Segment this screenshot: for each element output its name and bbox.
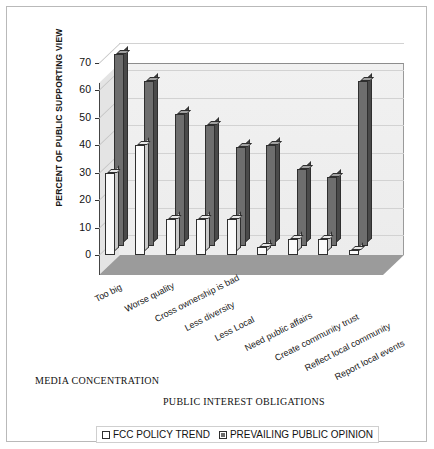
bar-side <box>276 137 280 242</box>
plot-area: 010203040506070 <box>99 63 404 275</box>
bar-face <box>166 219 176 255</box>
bar-side <box>246 140 250 242</box>
bar-face <box>349 250 359 255</box>
bar-face <box>227 219 237 255</box>
legend-item[interactable]: FCC POLICY TREND <box>102 429 210 440</box>
bar-side <box>337 170 341 242</box>
bar-fcc-policy-trend <box>135 141 145 255</box>
bar-fcc-policy-trend <box>257 243 267 255</box>
bar-face <box>196 219 206 255</box>
y-tick-mark <box>95 200 99 201</box>
bar-prevailing-public-opinion <box>266 141 276 246</box>
bar-side <box>368 74 372 242</box>
y-axis-line <box>99 83 100 275</box>
y-tick-mark <box>95 90 99 91</box>
y-tick-mark <box>95 118 99 119</box>
bar-face <box>135 145 145 255</box>
bar-fcc-policy-trend <box>349 246 359 255</box>
bar-fcc-policy-trend <box>105 169 115 255</box>
bar-fcc-policy-trend <box>318 235 328 255</box>
bar-fcc-policy-trend <box>166 215 176 255</box>
bar-face <box>288 239 298 255</box>
bar-fcc-policy-trend <box>196 215 206 255</box>
x-axis-label: Less Local <box>213 315 256 343</box>
bar-side <box>145 138 149 251</box>
group-label-public-interest-obligations: PUBLIC INTEREST OBLIGATIONS <box>163 396 325 407</box>
y-tick-label: 0 <box>65 248 91 260</box>
group-label-media-concentration: MEDIA CONCENTRATION <box>35 375 159 386</box>
y-tick-label: 50 <box>65 111 91 123</box>
y-tick-label: 40 <box>65 138 91 150</box>
bar-fcc-policy-trend <box>288 235 298 255</box>
y-tick-label: 10 <box>65 221 91 233</box>
chart-frame: PERCENT OF PUBLIC SUPPORTING VIEW 010203… <box>6 6 427 442</box>
bar-side <box>124 46 128 242</box>
x-axis-label: Create community trust <box>273 312 360 363</box>
legend-swatch-light <box>102 431 110 439</box>
y-tick-mark <box>95 145 99 146</box>
gridline <box>119 70 404 71</box>
bar-side <box>298 231 302 251</box>
chart-legend: FCC POLICY TRENDPREVAILING PUBLIC OPINIO… <box>96 426 379 443</box>
legend-item[interactable]: PREVAILING PUBLIC OPINION <box>219 429 373 440</box>
legend-swatch-dark <box>219 431 227 439</box>
y-tick-mark <box>95 255 99 256</box>
bar-side <box>154 74 158 242</box>
y-axis-title: PERCENT OF PUBLIC SUPPORTING VIEW <box>54 10 65 225</box>
bar-side <box>215 118 219 242</box>
bar-side <box>307 161 311 242</box>
bar-side <box>115 165 119 251</box>
plot-floor <box>99 255 404 275</box>
bar-face <box>318 239 328 255</box>
bar-face <box>358 81 368 246</box>
y-tick-mark <box>95 63 99 64</box>
bar-top <box>116 50 130 54</box>
legend-label: PREVAILING PUBLIC OPINION <box>230 429 373 440</box>
y-tick-label: 70 <box>65 56 91 68</box>
y-tick-label: 60 <box>65 83 91 95</box>
bar-face <box>257 247 267 255</box>
y-tick-mark <box>95 173 99 174</box>
bar-face <box>266 145 276 246</box>
x-axis-label: Too big <box>93 282 123 304</box>
y-tick-label: 20 <box>65 193 91 205</box>
y-tick-mark <box>95 228 99 229</box>
bar-fcc-policy-trend <box>227 215 237 255</box>
y-tick-label: 30 <box>65 166 91 178</box>
bar-prevailing-public-opinion <box>358 77 368 246</box>
legend-label: FCC POLICY TREND <box>113 429 210 440</box>
bar-face <box>105 173 115 255</box>
gridline <box>119 43 404 44</box>
bar-side <box>328 231 332 251</box>
bar-side <box>185 107 189 242</box>
